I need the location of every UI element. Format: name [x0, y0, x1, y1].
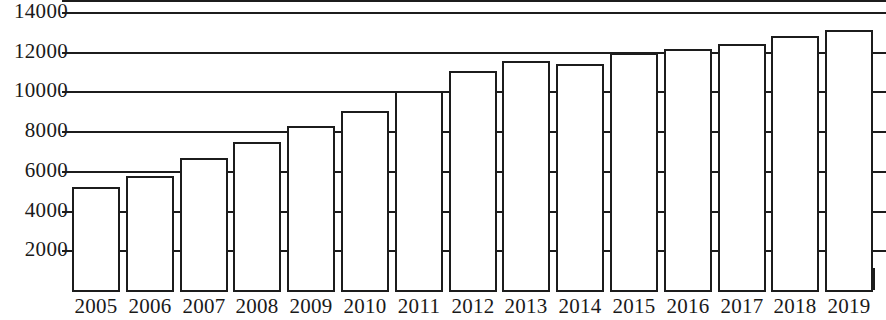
x-axis-tick: [610, 268, 612, 290]
gridline: [873, 131, 886, 133]
y-axis: 2000400060008000100001200014000: [0, 0, 68, 320]
x-axis-tick: [825, 268, 827, 290]
bar: [233, 142, 281, 292]
bar: [502, 61, 550, 292]
gridline: [873, 211, 886, 213]
x-axis-tick: [873, 268, 875, 290]
x-axis-tick-label: 2011: [391, 295, 447, 317]
x-axis-tick-label: 2019: [821, 295, 877, 317]
gridline: [62, 91, 395, 93]
bar: [556, 64, 604, 292]
x-axis-tick: [180, 268, 182, 290]
bar: [610, 53, 658, 292]
x-axis-tick-label: 2015: [606, 295, 662, 317]
x-axis-tick: [718, 268, 720, 290]
x-axis-tick-label: 2006: [122, 295, 178, 317]
y-axis-tick-label: 12000: [14, 41, 68, 62]
x-axis-tick-label: 2012: [445, 295, 501, 317]
bar: [126, 176, 174, 292]
bar: [718, 44, 766, 292]
x-axis-tick-label: 2010: [337, 295, 393, 317]
bar: [395, 91, 443, 292]
x-axis-tick: [126, 268, 128, 290]
x-axis-line: [62, 0, 886, 2]
x-axis-tick-label: 2014: [552, 295, 608, 317]
bar: [341, 111, 389, 292]
x-axis-tick: [556, 268, 558, 290]
gridline: [62, 171, 180, 173]
bar: [825, 30, 873, 292]
x-axis-tick-label: 2005: [68, 295, 124, 317]
bar: [449, 71, 497, 292]
x-axis-tick: [502, 268, 504, 290]
x-axis-tick-label: 2008: [229, 295, 285, 317]
x-axis-tick: [449, 268, 451, 290]
x-axis-tick-label: 2017: [714, 295, 770, 317]
gridline: [62, 12, 886, 14]
y-axis-tick-label: 14000: [14, 1, 68, 22]
gridline: [62, 131, 287, 133]
plot-area: 2005200620072008200920102011201220132014…: [72, 0, 886, 320]
gridline: [62, 52, 664, 54]
x-axis-tick: [771, 268, 773, 290]
gridline: [873, 91, 886, 93]
x-axis-tick: [233, 268, 235, 290]
x-axis-tick-label: 2013: [498, 295, 554, 317]
bar: [180, 158, 228, 292]
x-axis-tick-label: 2007: [176, 295, 232, 317]
gridline: [62, 211, 72, 213]
gridline: [873, 52, 886, 54]
gridline: [873, 250, 886, 252]
x-axis-tick: [395, 268, 397, 290]
bar: [664, 49, 712, 292]
gridline: [62, 250, 72, 252]
bar: [771, 36, 819, 292]
y-axis-tick-label: 10000: [14, 80, 68, 101]
bar-chart: 2000400060008000100001200014000 20052006…: [0, 0, 886, 320]
x-axis-tick: [341, 268, 343, 290]
x-axis-tick-label: 2018: [767, 295, 823, 317]
x-axis-tick-label: 2009: [283, 295, 339, 317]
bar: [287, 126, 335, 292]
x-axis-tick: [72, 268, 74, 290]
bar: [72, 187, 120, 292]
x-axis-tick: [664, 268, 666, 290]
gridline: [873, 171, 886, 173]
x-axis-tick-label: 2016: [660, 295, 716, 317]
x-axis-tick: [287, 268, 289, 290]
